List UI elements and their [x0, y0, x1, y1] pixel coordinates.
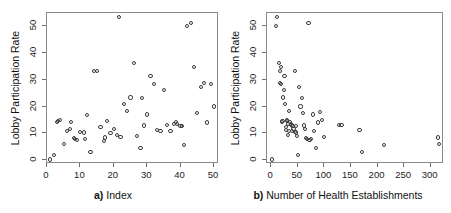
data-point — [296, 153, 300, 157]
data-point — [122, 102, 126, 106]
data-point — [294, 124, 298, 128]
data-point — [112, 127, 116, 131]
x-tick-label: 20 — [107, 170, 118, 180]
x-tick-mark — [323, 163, 324, 167]
data-point — [142, 123, 146, 127]
x-tick-label: 250 — [395, 170, 411, 180]
y-tick-label: 0 — [28, 156, 38, 161]
y-tick-label: 40 — [248, 47, 258, 58]
x-axis-title-b-text: Number of Health Establishments — [266, 189, 422, 201]
data-point — [322, 135, 326, 139]
y-tick-mark — [262, 52, 266, 53]
data-point — [282, 88, 286, 92]
data-point — [95, 69, 99, 73]
y-tick-label: 20 — [28, 100, 38, 111]
x-tick-label: 40 — [174, 170, 185, 180]
y-tick-label: 40 — [28, 47, 38, 58]
plot-frame-b — [266, 12, 443, 163]
data-point — [82, 130, 86, 134]
y-tick-label: 10 — [28, 127, 38, 138]
y-tick-mark — [42, 52, 46, 53]
data-point — [280, 119, 284, 123]
x-tick-label: 200 — [369, 170, 385, 180]
x-axis-title-a-text: Index — [106, 189, 132, 201]
data-point — [303, 127, 307, 131]
data-point — [118, 135, 122, 139]
y-tick-mark — [42, 25, 46, 26]
data-point — [108, 131, 112, 135]
x-axis-title-a-prefix: a) — [94, 189, 103, 201]
data-point — [301, 111, 305, 115]
data-point — [135, 134, 139, 138]
data-point — [158, 129, 162, 133]
data-point — [281, 95, 285, 99]
x-axis-title-b: b) Number of Health Establishments — [225, 189, 451, 201]
x-tick-label: 150 — [342, 170, 358, 180]
data-point — [162, 88, 166, 92]
data-point — [140, 96, 144, 100]
data-point — [298, 104, 302, 108]
data-point — [88, 150, 92, 154]
data-point — [58, 118, 62, 122]
data-point — [69, 120, 73, 124]
x-tick-mark — [46, 163, 47, 167]
data-point — [339, 123, 343, 127]
data-point — [286, 133, 290, 137]
data-point — [314, 146, 318, 150]
data-point — [62, 142, 66, 146]
data-point — [85, 113, 89, 117]
x-tick-label: 10 — [74, 170, 85, 180]
x-tick-label: 0 — [43, 170, 48, 180]
y-tick-label: 30 — [28, 74, 38, 85]
y-tick-mark — [262, 132, 266, 133]
data-point — [300, 96, 304, 100]
data-point — [103, 135, 107, 139]
data-point — [279, 65, 283, 69]
x-tick-label: 50 — [208, 170, 219, 180]
data-point — [295, 134, 299, 138]
x-tick-mark — [180, 163, 181, 167]
x-tick-mark — [350, 163, 351, 167]
y-tick-label: 20 — [248, 100, 258, 111]
data-point — [152, 82, 156, 86]
data-point — [98, 125, 102, 129]
data-point — [306, 21, 310, 25]
data-point — [202, 81, 206, 85]
data-point — [274, 24, 278, 28]
y-tick-label: 50 — [28, 20, 38, 31]
y-tick-mark — [42, 106, 46, 107]
y-tick-label: 30 — [248, 74, 258, 85]
data-point — [75, 138, 79, 142]
data-point — [270, 157, 274, 161]
y-tick-mark — [42, 159, 46, 160]
x-tick-label: 100 — [315, 170, 331, 180]
data-point — [309, 137, 313, 141]
data-point — [278, 69, 282, 73]
data-point — [128, 95, 132, 99]
y-tick-mark — [262, 25, 266, 26]
y-tick-mark — [262, 106, 266, 107]
panel-a-index: 0102030405001020304050 a) Index Lobby Pa… — [0, 0, 226, 213]
y-tick-label: 0 — [248, 156, 258, 161]
x-tick-label: 30 — [141, 170, 152, 180]
data-points-b — [267, 13, 442, 162]
x-tick-mark — [297, 163, 298, 167]
data-point — [209, 82, 213, 86]
plot-frame-a — [46, 12, 218, 163]
x-tick-mark — [79, 163, 80, 167]
data-point — [168, 129, 172, 133]
y-tick-label: 10 — [248, 127, 258, 138]
data-point — [318, 110, 322, 114]
data-point — [138, 146, 142, 150]
data-point — [436, 135, 440, 139]
data-point — [297, 85, 301, 89]
data-point — [212, 104, 216, 108]
y-tick-label: 50 — [248, 20, 258, 31]
data-point — [117, 15, 121, 19]
data-point — [282, 74, 286, 78]
data-point — [283, 102, 287, 106]
data-point — [357, 128, 361, 132]
data-point — [287, 109, 291, 113]
y-tick-mark — [42, 132, 46, 133]
x-axis-title-b-prefix: b) — [253, 189, 263, 201]
